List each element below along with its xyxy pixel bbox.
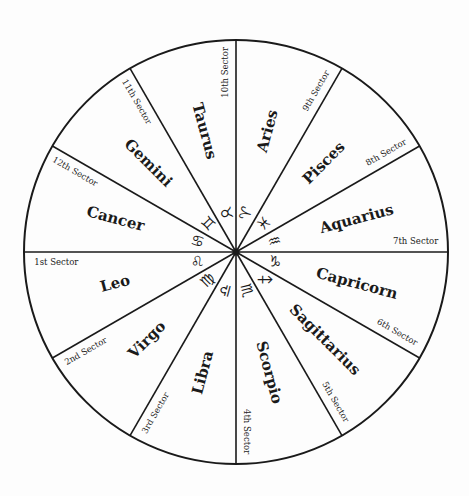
sign-label-pisces: Pisces xyxy=(299,138,349,188)
sector-label: 9th Sector xyxy=(300,68,332,113)
sector-label: 10th Sector xyxy=(220,46,230,98)
zodiac-wheel: Leo♌1st SectorVirgo♍2nd SectorLibra♎3rd … xyxy=(0,0,469,496)
sign-label-virgo: Virgo xyxy=(124,317,170,363)
center-hub xyxy=(233,249,240,256)
sign-label-libra: Libra xyxy=(188,348,217,396)
scorpio-glyph-icon: ♏ xyxy=(236,282,257,300)
sector-label: 6th Sector xyxy=(375,316,420,348)
sector-label: 1st Sector xyxy=(34,257,79,267)
taurus-glyph-icon: ♉ xyxy=(216,204,237,222)
sign-label-aries: Aries xyxy=(253,108,282,155)
sign-label-aquarius: Aquarius xyxy=(317,200,396,237)
sign-label-gemini: Gemini xyxy=(121,135,177,191)
sign-label-leo: Leo xyxy=(98,271,132,296)
libra-glyph-icon: ♎ xyxy=(215,282,236,300)
sector-label: 8th Sector xyxy=(364,136,409,168)
sign-label-sagittarius: Sagittarius xyxy=(286,300,365,379)
sector-label: 7th Sector xyxy=(393,236,439,246)
sign-label-taurus: Taurus xyxy=(188,101,220,161)
sign-label-scorpio: Scorpio xyxy=(252,339,286,406)
cancer-glyph-icon: ♋ xyxy=(189,231,207,252)
sign-label-cancer: Cancer xyxy=(85,202,148,235)
sector-label: 4th Sector xyxy=(242,409,252,455)
leo-glyph-icon: ♌ xyxy=(188,251,206,272)
aquarius-glyph-icon: ♒ xyxy=(266,231,284,252)
sector-label: 5th Sector xyxy=(320,380,352,425)
sign-label-capricorn: Capricorn xyxy=(314,264,400,303)
capricorn-glyph-icon: ♑ xyxy=(266,251,284,272)
aries-glyph-icon: ♈ xyxy=(235,204,256,222)
